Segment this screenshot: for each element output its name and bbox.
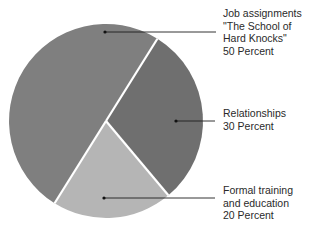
label-line: Relationships <box>223 107 286 120</box>
label-line: Hard Knocks" <box>223 32 302 45</box>
label-line: Formal training <box>223 184 293 197</box>
label-relationships: Relationships 30 Percent <box>223 107 286 132</box>
label-line: "The School of <box>223 20 302 33</box>
label-formal-training: Formal training and education 20 Percent <box>223 184 293 222</box>
leader-dot <box>102 196 105 199</box>
leader-dot <box>174 119 177 122</box>
label-line: and education <box>223 197 293 210</box>
label-percent: 30 Percent <box>223 120 286 133</box>
label-percent: 20 Percent <box>223 209 293 222</box>
label-percent: 50 Percent <box>223 45 302 58</box>
label-job-assignments: Job assignments "The School of Hard Knoc… <box>223 7 302 57</box>
leader-dot <box>103 30 106 33</box>
label-line: Job assignments <box>223 7 302 20</box>
